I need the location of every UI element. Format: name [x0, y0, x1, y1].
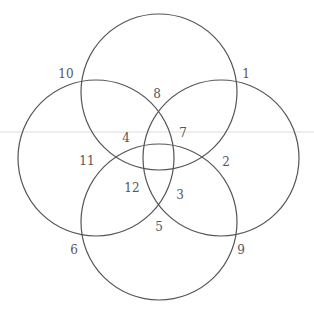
- region-label-4: 4: [122, 132, 130, 144]
- region-label-6: 6: [70, 244, 78, 256]
- circle-left: [18, 80, 174, 236]
- venn-circles: [0, 0, 314, 319]
- region-label-10: 10: [58, 68, 73, 80]
- venn-diagram: 1 2 3 4 5 6 7 8 9 10 11 12: [0, 0, 314, 319]
- region-label-12: 12: [124, 182, 139, 194]
- region-label-9: 9: [237, 244, 245, 256]
- region-label-3: 3: [176, 189, 184, 201]
- region-label-7: 7: [179, 127, 187, 139]
- region-label-5: 5: [155, 221, 163, 233]
- region-label-11: 11: [79, 155, 94, 167]
- circle-right: [143, 80, 299, 236]
- region-label-1: 1: [242, 68, 250, 80]
- region-label-2: 2: [222, 156, 230, 168]
- region-label-8: 8: [153, 88, 161, 100]
